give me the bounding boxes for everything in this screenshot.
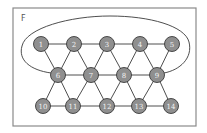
node-9: 9 <box>150 68 165 83</box>
node-6: 6 <box>51 68 66 83</box>
node-label: 10 <box>39 103 48 111</box>
node-label: 5 <box>170 41 174 49</box>
face-label: F <box>21 14 26 23</box>
node-label: 6 <box>56 72 61 80</box>
node-label: 9 <box>155 72 159 80</box>
node-label: 3 <box>105 41 109 49</box>
node-label: 14 <box>167 103 176 111</box>
node-label: 8 <box>122 72 126 80</box>
node-label: 13 <box>135 103 144 111</box>
node-label: 11 <box>69 103 78 111</box>
graph-diagram: F 1234567891011121314 <box>0 0 207 133</box>
node-label: 7 <box>89 72 93 80</box>
node-13: 13 <box>132 99 147 114</box>
node-3: 3 <box>100 37 115 52</box>
node-7: 7 <box>84 68 99 83</box>
node-4: 4 <box>133 37 148 52</box>
node-8: 8 <box>117 68 132 83</box>
node-14: 14 <box>164 99 179 114</box>
node-label: 2 <box>72 41 76 49</box>
node-label: 12 <box>103 103 112 111</box>
node-12: 12 <box>100 99 115 114</box>
node-10: 10 <box>36 99 51 114</box>
node-1: 1 <box>34 37 49 52</box>
node-2: 2 <box>67 37 82 52</box>
node-5: 5 <box>165 37 180 52</box>
node-label: 4 <box>138 41 143 49</box>
node-11: 11 <box>66 99 81 114</box>
node-label: 1 <box>39 41 43 49</box>
